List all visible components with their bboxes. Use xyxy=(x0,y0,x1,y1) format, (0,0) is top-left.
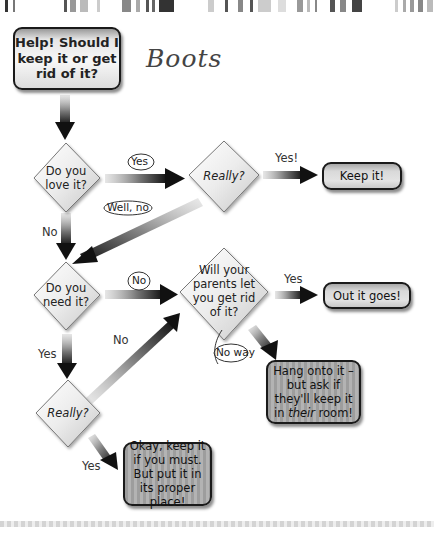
handwritten-item-name: Boots xyxy=(146,44,222,73)
decision-really2-text: Really? xyxy=(38,406,98,420)
decision-need-text: Do you need it? xyxy=(41,281,91,309)
decision-love-text: Do you love it? xyxy=(41,164,91,192)
outcome-out-text: Out it goes! xyxy=(333,289,401,303)
outcome-okay-box: Okay, keep it if you must. But put it in… xyxy=(123,442,212,506)
outcome-keep-box: Keep it! xyxy=(322,162,402,190)
edge-label-parents-yes: Yes xyxy=(284,272,303,286)
edge-label-parents-no: No way xyxy=(216,346,255,358)
decision-really1-text: Really? xyxy=(194,169,254,183)
outcome-out-box: Out it goes! xyxy=(323,282,411,309)
arrow-love-yes xyxy=(105,168,185,189)
bottom-divider xyxy=(0,521,434,527)
arrow-need-yes xyxy=(57,334,77,379)
arrow-parents-yes xyxy=(275,286,318,304)
edge-label-really2-no: No xyxy=(113,333,129,347)
arrow-really1-yes xyxy=(263,166,318,184)
outcome-hang-text-b: room! xyxy=(315,406,353,420)
start-question-box: Help! Should I keep it or get rid of it? xyxy=(13,27,121,90)
edge-label-love-no: No xyxy=(42,225,58,239)
outcome-hang-text-emphasis: their xyxy=(288,406,315,420)
edge-label-need-no: No xyxy=(132,274,146,286)
edge-label-really1-yes: Yes! xyxy=(275,151,298,165)
edge-label-love-yes: Yes xyxy=(131,155,148,167)
outcome-hang-box: Hang onto it – but ask if they'll keep i… xyxy=(266,360,361,424)
edge-label-really2-yes: Yes xyxy=(82,459,101,473)
outcome-okay-text: Okay, keep it if you must. But put it in… xyxy=(125,439,210,509)
arrow-start-to-love xyxy=(55,95,75,140)
arrow-really2-no xyxy=(86,313,180,404)
outcome-keep-text: Keep it! xyxy=(340,169,384,183)
arrow-love-no xyxy=(56,213,76,260)
edge-label-really1-no: Well, no xyxy=(107,201,149,213)
start-question-text: Help! Should I keep it or get rid of it? xyxy=(15,35,119,82)
outcome-hang-text: Hang onto it – but ask if they'll keep i… xyxy=(268,364,359,420)
arrow-need-no xyxy=(105,284,178,305)
edge-label-need-yes: Yes xyxy=(38,347,57,361)
decision-parents-text: Will your parents let you get rid of it? xyxy=(191,263,257,319)
